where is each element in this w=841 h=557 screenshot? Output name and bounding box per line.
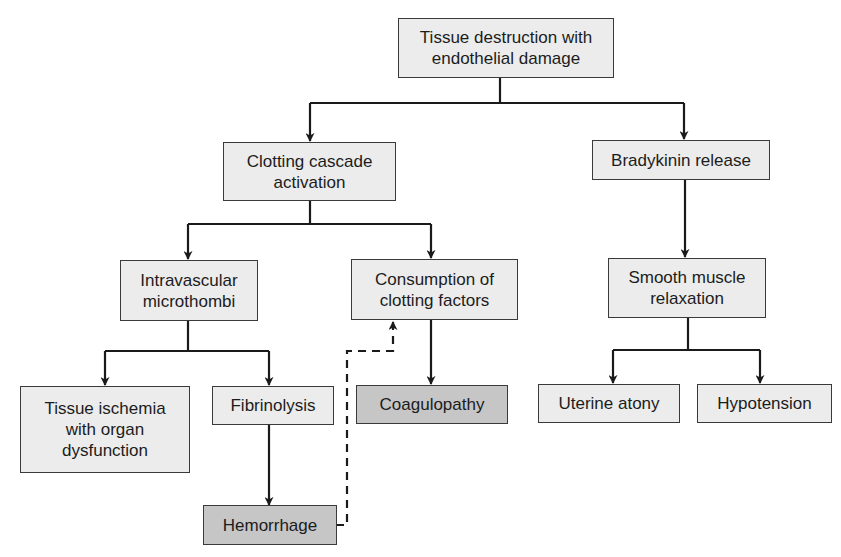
node-label: relaxation <box>650 288 724 309</box>
node-hypotension: Hypotension <box>697 384 832 423</box>
node-label: Fibrinolysis <box>230 395 315 416</box>
node-label: microthombi <box>143 291 236 312</box>
edge-root-branches <box>310 78 684 141</box>
node-label: Tissue ischemia <box>44 398 165 419</box>
edge-smooth-muscle-branches <box>613 318 760 383</box>
node-label: activation <box>274 172 346 193</box>
node-clotting-cascade: Clotting cascade activation <box>223 142 396 201</box>
edge-microthrombi-branches <box>105 321 269 385</box>
node-bradykinin-release: Bradykinin release <box>592 140 770 180</box>
edge-clotting-branches <box>188 201 431 259</box>
node-label: Hypotension <box>717 393 812 414</box>
node-label: Tissue destruction with <box>420 27 592 48</box>
node-label: Intravascular <box>140 270 237 291</box>
node-label: clotting factors <box>380 290 490 311</box>
node-smooth-muscle-relaxation: Smooth muscle relaxation <box>608 258 766 318</box>
node-intravascular-microthrombi: Intravascular microthombi <box>120 260 258 321</box>
node-tissue-ischemia: Tissue ischemia with organ dysfunction <box>20 386 190 473</box>
node-label: endothelial damage <box>432 48 580 69</box>
node-label: Bradykinin release <box>611 150 751 171</box>
node-fibrinolysis: Fibrinolysis <box>212 386 334 425</box>
node-label: Hemorrhage <box>223 515 318 536</box>
node-uterine-atony: Uterine atony <box>538 384 680 423</box>
node-coagulopathy: Coagulopathy <box>356 385 508 424</box>
node-label: Smooth muscle <box>628 267 745 288</box>
node-label: dysfunction <box>62 440 148 461</box>
node-label: Consumption of <box>375 269 494 290</box>
node-label: Clotting cascade <box>247 151 373 172</box>
node-tissue-destruction: Tissue destruction with endothelial dama… <box>398 18 614 78</box>
node-hemorrhage: Hemorrhage <box>203 505 337 545</box>
node-label: Coagulopathy <box>380 394 485 415</box>
node-label: Uterine atony <box>558 393 659 414</box>
node-label: with organ <box>66 419 144 440</box>
node-consumption-clotting-factors: Consumption of clotting factors <box>351 259 518 320</box>
